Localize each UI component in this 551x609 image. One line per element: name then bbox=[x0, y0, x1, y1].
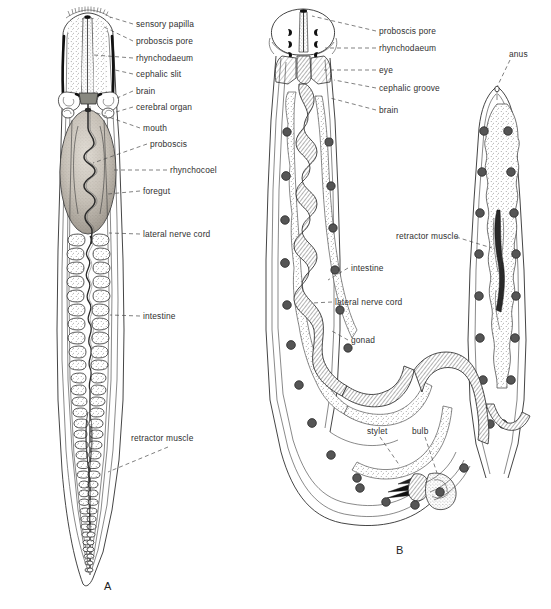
label-b-brain: brain bbox=[379, 105, 399, 115]
label-panel-a: A bbox=[104, 580, 112, 592]
figure-canvas: sensory papilla proboscis pore rhynchoda… bbox=[0, 0, 551, 609]
label-a-foregut: foregut bbox=[143, 186, 171, 196]
label-a-brain: brain bbox=[136, 86, 156, 96]
label-a-mouth: mouth bbox=[143, 123, 167, 133]
label-b-cephalic-groove: cephalic groove bbox=[379, 83, 440, 93]
label-a-sensory-papilla: sensory papilla bbox=[136, 19, 194, 29]
a-head-tissue-left bbox=[68, 17, 82, 92]
label-a-lateral-nerve-cord: lateral nerve cord bbox=[143, 229, 211, 239]
anatomy-figure: sensory papilla proboscis pore rhynchoda… bbox=[0, 0, 551, 609]
label-b-bulb: bulb bbox=[412, 426, 429, 436]
b-brain-commissure bbox=[297, 56, 311, 84]
b-proboscis-pore bbox=[300, 9, 307, 12]
label-b-gonad: gonad bbox=[351, 335, 375, 345]
label-panel-b: B bbox=[396, 544, 403, 556]
a-mouth bbox=[85, 108, 91, 112]
label-b-eye: eye bbox=[379, 65, 393, 75]
label-a-cerebral-organ: cerebral organ bbox=[136, 102, 192, 112]
a-head-tissue-right bbox=[93, 17, 107, 92]
label-b-anus: anus bbox=[509, 49, 528, 59]
label-b-rhynchodaeum: rhynchodaeum bbox=[379, 43, 436, 53]
label-a-rhynchodaeum: rhynchodaeum bbox=[136, 53, 193, 63]
label-a-retractor-muscle: retractor muscle bbox=[131, 433, 194, 443]
label-b-intestine: intestine bbox=[351, 263, 384, 273]
label-a-proboscis-pore: proboscis pore bbox=[136, 36, 193, 46]
label-a-intestine: intestine bbox=[143, 311, 176, 321]
label-b-stylet: stylet bbox=[367, 426, 388, 436]
label-a-rhynchocoel: rhynchocoel bbox=[170, 165, 217, 175]
b-brain-right bbox=[311, 56, 331, 84]
label-b-lateral-nerve-cord: lateral nerve cord bbox=[335, 297, 403, 307]
a-proboscis-pore bbox=[84, 15, 90, 19]
label-a-cephalic-slit: cephalic slit bbox=[136, 69, 182, 79]
label-b-retractor-muscle: retractor muscle bbox=[396, 231, 459, 241]
label-a-proboscis: proboscis bbox=[150, 139, 187, 149]
b-anus bbox=[495, 86, 499, 92]
label-b-proboscis-pore: proboscis pore bbox=[379, 26, 436, 36]
